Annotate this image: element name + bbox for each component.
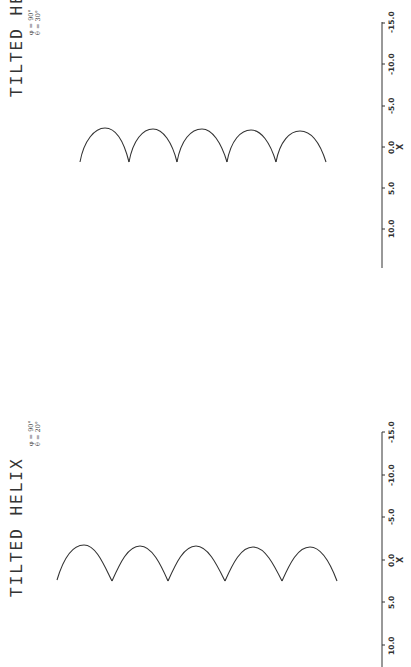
top-tick-label: -15.0 bbox=[387, 11, 396, 33]
bottom-x-axis-label: X bbox=[396, 557, 405, 563]
top-x-axis-label: X bbox=[396, 144, 405, 150]
top-x-axis bbox=[382, 22, 385, 268]
top-tick-label: -5.0 bbox=[387, 98, 396, 114]
top-tick-label: 5.0 bbox=[387, 182, 396, 195]
top-tick-label: 0.0 bbox=[387, 141, 396, 154]
bottom-theta-annotation: θ = 20° bbox=[35, 421, 42, 446]
plot-canvas bbox=[0, 0, 411, 667]
bottom-tick-label: 0.0 bbox=[387, 554, 396, 567]
top-theta-annotation: θ = 30° bbox=[35, 10, 42, 35]
bottom-tick-label: -15.0 bbox=[387, 421, 396, 443]
bottom-tick-label: -5.0 bbox=[387, 509, 396, 525]
top-tick-label: 10.0 bbox=[387, 219, 396, 238]
top-chart-title: TILTED HELIX bbox=[7, 0, 26, 97]
bottom-tick-label: 10.0 bbox=[387, 636, 396, 655]
bottom-tick-label: 5.0 bbox=[387, 596, 396, 609]
top-tick-label: -10.0 bbox=[387, 53, 396, 75]
top-helix-curve bbox=[80, 128, 326, 162]
bottom-chart-title: TILTED HELIX bbox=[7, 457, 26, 597]
bottom-helix-curve bbox=[57, 545, 337, 581]
bottom-tick-label: -10.0 bbox=[387, 464, 396, 486]
bottom-x-axis bbox=[382, 432, 385, 667]
